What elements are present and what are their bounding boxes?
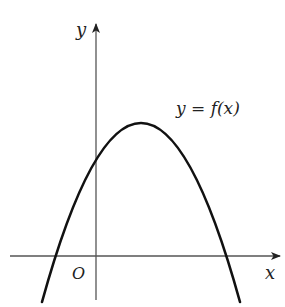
y-axis-label: y <box>75 19 87 40</box>
curve-label: y = f(x) <box>175 98 240 118</box>
function-graph: y x O y = f(x) <box>0 0 285 307</box>
x-axis-label: x <box>265 262 275 283</box>
origin-label: O <box>72 264 85 283</box>
